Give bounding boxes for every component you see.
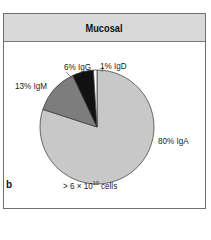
panel-letter: b bbox=[6, 179, 12, 190]
cell-count-base: > 6 × 10 bbox=[63, 181, 93, 191]
label-igm: 13% IgM bbox=[15, 81, 47, 91]
label-iga: 80% IgA bbox=[158, 136, 189, 146]
label-igd: 1% IgD bbox=[100, 61, 127, 71]
cell-count-unit: cells bbox=[99, 181, 117, 191]
label-igg: 6% IgG bbox=[64, 62, 91, 72]
cell-count-annotation: > 6 × 1010 cells bbox=[63, 180, 117, 191]
